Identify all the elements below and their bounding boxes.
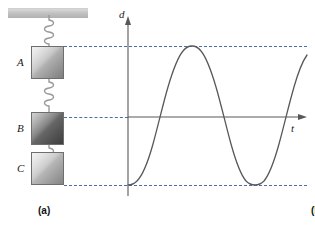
spring-ceiling-to-a xyxy=(32,15,66,47)
block-b xyxy=(31,112,64,145)
block-a-sheen xyxy=(32,47,63,78)
spring-a-to-b xyxy=(32,78,66,113)
block-a-label: A xyxy=(17,56,24,68)
panel-spring-mass-system: A B C (a) xyxy=(0,0,115,231)
block-b-label: B xyxy=(17,122,24,134)
physics-figure: A B C (a) d t (b) xyxy=(0,0,315,231)
caption-panel-a: (a) xyxy=(38,205,50,216)
caption-panel-b: (b) xyxy=(311,205,315,216)
displacement-time-plot xyxy=(115,0,315,231)
y-axis-label: d xyxy=(119,8,125,20)
block-c-label: C xyxy=(17,162,24,174)
x-axis-label: t xyxy=(291,122,294,134)
x-axis-arrowhead xyxy=(298,114,307,120)
displacement-curve xyxy=(128,46,307,185)
block-c xyxy=(31,152,64,185)
block-c-sheen xyxy=(32,153,63,184)
block-a xyxy=(31,46,64,79)
block-b-sheen xyxy=(32,113,63,144)
panel-displacement-graph: d t (b) xyxy=(115,0,315,231)
y-axis-arrowhead xyxy=(125,16,131,25)
